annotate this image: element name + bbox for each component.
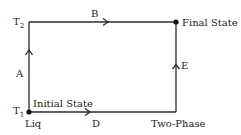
initial-state-label: Initial State: [33, 98, 93, 109]
initial-state-dot: [26, 109, 31, 114]
process-path-diagram: T2 T1 B A E D Final State Initial State …: [0, 0, 241, 135]
edge-label-a: A: [15, 68, 24, 79]
edge-label-d: D: [92, 118, 100, 129]
two-phase-label: Two-Phase: [151, 118, 206, 129]
edge-label-b: B: [91, 8, 98, 19]
edge-label-e: E: [181, 60, 188, 71]
final-state-label: Final State: [182, 17, 238, 28]
final-state-dot: [173, 19, 178, 24]
liq-label: Liq: [25, 118, 42, 129]
t2-label: T2: [13, 16, 24, 30]
t1-label: T1: [13, 105, 24, 119]
